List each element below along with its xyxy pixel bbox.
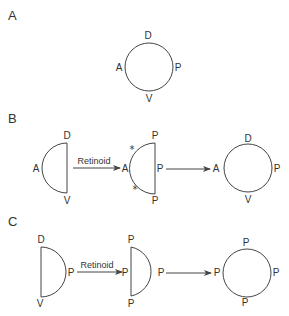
- label-top: D: [37, 234, 44, 245]
- label-left: A: [122, 163, 129, 174]
- label-left: A: [33, 163, 40, 174]
- asterisk-top: *: [130, 144, 135, 155]
- label-left: A: [213, 163, 220, 174]
- label-left: A: [116, 62, 123, 73]
- label-right: P: [274, 163, 281, 174]
- label-left: P: [214, 267, 221, 278]
- label-top: D: [244, 133, 251, 144]
- half-circle-b1: [42, 143, 67, 193]
- circle-c: [223, 249, 271, 297]
- circle-a: [125, 43, 173, 91]
- label-right: P: [68, 267, 75, 278]
- label-right: P: [157, 163, 164, 174]
- label-right: P: [158, 267, 165, 278]
- panel-b: B D A V Retinoid P A P P * * D A P V: [8, 111, 281, 206]
- label-bottom: P: [128, 298, 135, 309]
- circle-b: [224, 144, 272, 192]
- label-top: D: [63, 130, 70, 141]
- label-bottom: P: [152, 195, 159, 206]
- panel-label-a: A: [8, 8, 17, 23]
- label-top: P: [243, 237, 250, 248]
- half-circle-c2: [131, 247, 151, 296]
- panel-label-c: C: [8, 214, 17, 229]
- panel-c: C D P V Retinoid P P P P P P P P: [8, 214, 280, 309]
- label-top: D: [144, 30, 151, 41]
- panel-a: A D A P V: [8, 8, 182, 104]
- label-bottom: P: [242, 297, 249, 308]
- label-top: P: [128, 234, 135, 245]
- label-top: P: [152, 130, 159, 141]
- label-bottom: V: [64, 195, 71, 206]
- panel-label-b: B: [8, 111, 17, 126]
- label-right: P: [273, 267, 280, 278]
- label-bottom: V: [37, 298, 44, 309]
- half-circle-c1: [41, 247, 66, 297]
- diagram: A D A P V B D A V Retinoid P A P P * * D…: [0, 0, 289, 316]
- label-left: P: [122, 267, 129, 278]
- label-bottom: V: [146, 93, 153, 104]
- label-bottom: V: [245, 194, 252, 205]
- asterisk-bottom: *: [133, 184, 138, 195]
- arrow-label: Retinoid: [77, 156, 110, 166]
- label-right: P: [175, 62, 182, 73]
- arrow-label: Retinoid: [80, 260, 113, 270]
